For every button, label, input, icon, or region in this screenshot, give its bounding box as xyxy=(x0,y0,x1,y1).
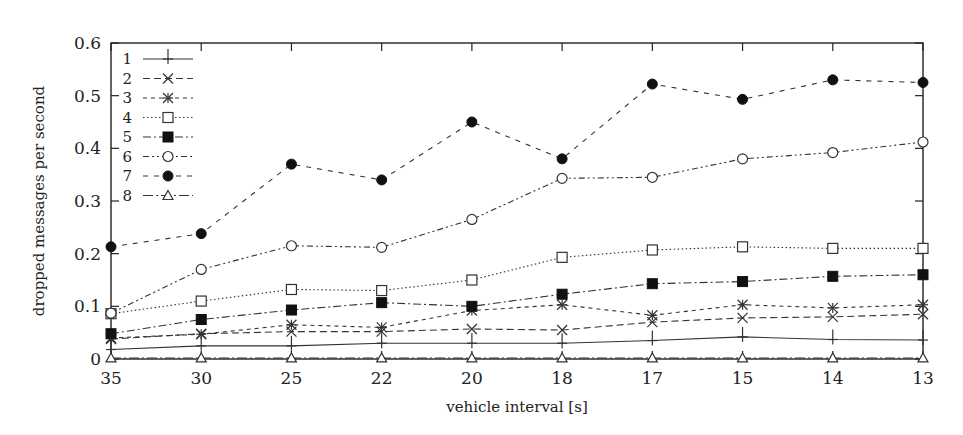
x-tick-label: 14 xyxy=(822,368,844,388)
x-tick-label: 35 xyxy=(100,368,122,388)
series-5 xyxy=(106,270,928,339)
series-3 xyxy=(106,300,928,343)
legend-label: 6 xyxy=(122,148,132,166)
y-tick-label: 0 xyxy=(90,349,101,369)
x-axis-title: vehicle interval [s] xyxy=(445,398,588,416)
y-tick-label: 0.1 xyxy=(74,296,101,316)
legend-item-8: 8 xyxy=(122,187,193,205)
legend-label: 7 xyxy=(122,167,132,185)
plot-area xyxy=(111,43,923,359)
series-1 xyxy=(106,327,928,355)
x-tick-label: 18 xyxy=(551,368,573,388)
legend-item-6: 6 xyxy=(122,148,193,166)
y-tick-label: 0.5 xyxy=(74,86,101,106)
legend-label: 8 xyxy=(122,187,132,205)
legend-label: 5 xyxy=(122,128,132,146)
series-layer xyxy=(106,75,928,362)
legend-item-7: 7 xyxy=(122,167,193,185)
x-tick-label: 30 xyxy=(190,368,212,388)
x-tick-label: 22 xyxy=(371,368,393,388)
x-tick-label: 17 xyxy=(642,368,664,388)
y-axis-title: dropped messages per second xyxy=(30,85,48,316)
legend: 12345678 xyxy=(122,49,193,205)
x-tick-label: 25 xyxy=(281,368,303,388)
series-6 xyxy=(106,137,928,318)
y-tick-label: 0.2 xyxy=(74,244,101,264)
y-tick-label: 0.4 xyxy=(74,138,101,158)
legend-label: 3 xyxy=(122,89,132,107)
legend-item-1: 1 xyxy=(122,49,193,68)
y-tick-label: 0.3 xyxy=(74,191,101,211)
line-chart: 00.10.20.30.40.50.6 35302522201817151413… xyxy=(0,0,963,435)
legend-item-2: 2 xyxy=(122,70,193,88)
legend-item-4: 4 xyxy=(122,109,193,127)
x-tick-label: 13 xyxy=(912,368,934,388)
legend-item-5: 5 xyxy=(122,128,193,146)
x-tick-label: 20 xyxy=(461,368,483,388)
y-tick-label: 0.6 xyxy=(74,33,101,53)
legend-label: 4 xyxy=(122,109,132,127)
series-8 xyxy=(106,353,928,362)
legend-label: 2 xyxy=(122,70,132,88)
legend-label: 1 xyxy=(122,50,132,68)
legend-item-3: 3 xyxy=(122,89,193,107)
series-7 xyxy=(106,75,928,252)
x-tick-label: 15 xyxy=(732,368,754,388)
